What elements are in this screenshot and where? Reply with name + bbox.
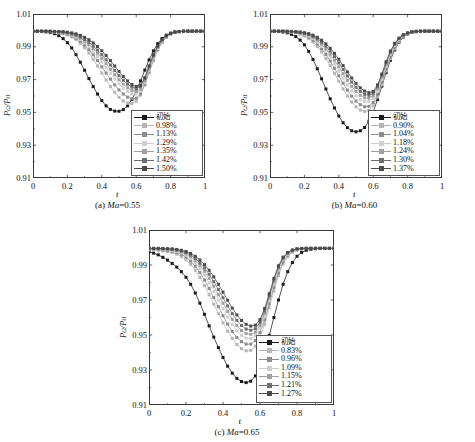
panel-caption-c: (c) Ma=0.65 <box>113 427 361 437</box>
panel-caption-b: (b) Ma=0.60 <box>237 200 472 210</box>
y-axis-label: Pt2/Pt1 <box>239 94 249 116</box>
legend-marker-icon <box>134 139 154 147</box>
legend-marker-icon <box>259 355 279 363</box>
x-tick-label: 0.6 <box>248 408 272 418</box>
chart-panel-c: 0.910.930.950.970.991.0100.20.40.60.81Pt… <box>113 218 361 442</box>
legend-marker-icon <box>134 165 154 173</box>
legend-item[interactable]: 1.27% <box>259 390 328 399</box>
y-tick-label: 0.93 <box>245 140 268 150</box>
legend-marker-icon <box>259 364 279 372</box>
legend-marker-icon <box>371 113 391 121</box>
y-axis-label: Pt2/Pt1 <box>118 315 128 337</box>
legend-b[interactable]: 初始0.90%1.04%1.18%1.24%1.30%1.37% <box>368 110 440 176</box>
legend-marker-icon <box>371 139 391 147</box>
y-axis-label: Pt2/Pt1 <box>2 94 12 116</box>
x-tick-label: 1 <box>193 181 217 191</box>
x-tick-label: 0.2 <box>174 408 198 418</box>
legend-a[interactable]: 初始0.98%1.13%1.29%1.35%1.42%1.50% <box>131 110 203 176</box>
x-tick-label: 0.4 <box>211 408 235 418</box>
legend-marker-icon <box>259 373 279 381</box>
legend-marker-icon <box>259 381 279 389</box>
y-tick-label: 0.93 <box>8 140 31 150</box>
legend-marker-icon <box>134 148 154 156</box>
series-3 <box>33 30 205 101</box>
x-tick-label: 0.6 <box>124 181 148 191</box>
legend-marker-icon <box>371 148 391 156</box>
legend-c[interactable]: 初始0.83%0.96%1.09%1.15%1.21%1.27% <box>256 335 332 403</box>
legend-item[interactable]: 1.37% <box>371 165 436 174</box>
legend-marker-icon <box>259 347 279 355</box>
legend-label: 1.27% <box>279 390 302 399</box>
y-tick-label: 1.01 <box>8 9 31 19</box>
chart-panel-b: 0.910.930.950.970.991.0100.20.40.60.81Pt… <box>237 0 472 215</box>
y-tick-label: 0.99 <box>8 41 31 51</box>
x-axis-label: t <box>239 416 242 426</box>
legend-marker-icon <box>371 156 391 164</box>
x-tick-label: 0 <box>137 408 161 418</box>
x-tick-label: 1 <box>430 181 454 191</box>
x-axis-label: t <box>353 189 356 199</box>
legend-marker-icon <box>134 156 154 164</box>
x-tick-label: 0.2 <box>55 181 79 191</box>
series-7 <box>270 30 442 95</box>
legend-marker-icon <box>371 165 391 173</box>
legend-marker-icon <box>371 130 391 138</box>
x-tick-label: 0.4 <box>327 181 351 191</box>
y-tick-label: 1.01 <box>124 225 147 235</box>
legend-label: 1.50% <box>154 165 177 174</box>
x-tick-label: 0.2 <box>292 181 316 191</box>
legend-label: 1.37% <box>391 165 414 174</box>
x-axis-label: t <box>116 189 119 199</box>
y-tick-label: 0.97 <box>245 74 268 84</box>
figure-container: 0.910.930.950.970.991.0100.20.40.60.81Pt… <box>0 0 475 442</box>
legend-marker-icon <box>259 338 279 346</box>
x-tick-label: 0.6 <box>361 181 385 191</box>
series-5 <box>270 30 442 100</box>
series-4 <box>33 30 205 96</box>
x-tick-label: 0 <box>258 181 282 191</box>
x-tick-label: 1 <box>322 408 346 418</box>
legend-marker-icon <box>259 390 279 398</box>
legend-item[interactable]: 1.50% <box>134 165 199 174</box>
legend-marker-icon <box>371 122 391 130</box>
legend-marker-icon <box>134 130 154 138</box>
x-tick-label: 0.8 <box>159 181 183 191</box>
series-2 <box>33 30 205 105</box>
series-7 <box>149 247 334 328</box>
series-6 <box>270 30 442 97</box>
x-tick-label: 0.8 <box>285 408 309 418</box>
y-tick-label: 0.97 <box>8 74 31 84</box>
y-tick-label: 0.97 <box>124 295 147 305</box>
legend-marker-icon <box>134 113 154 121</box>
y-tick-label: 0.99 <box>124 260 147 270</box>
x-tick-label: 0.8 <box>396 181 420 191</box>
series-5 <box>149 247 334 336</box>
y-tick-label: 0.93 <box>124 365 147 375</box>
x-tick-label: 0.4 <box>90 181 114 191</box>
legend-marker-icon <box>134 122 154 130</box>
y-tick-label: 1.01 <box>245 9 268 19</box>
y-tick-label: 0.99 <box>245 41 268 51</box>
panel-caption-a: (a) Ma=0.55 <box>0 200 235 210</box>
x-tick-label: 0 <box>21 181 45 191</box>
chart-panel-a: 0.910.930.950.970.991.0100.20.40.60.81Pt… <box>0 0 235 215</box>
